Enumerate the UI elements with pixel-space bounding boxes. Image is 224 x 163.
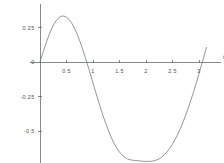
x-axis-name: t [223, 54, 224, 60]
y-tick-label: -0.25 [20, 94, 34, 100]
x-tick-label: 3 [197, 68, 200, 74]
chart-figure: 0.511.522.530.250-0.25-0.5t [0, 0, 224, 163]
plot-area: 0.511.522.530.250-0.25-0.5t [0, 0, 224, 163]
x-tick-label: 2.5 [168, 68, 177, 74]
curve-group [40, 16, 206, 161]
x-tick-label: 1 [91, 68, 94, 74]
x-tick-label: 2 [144, 68, 147, 74]
tick-labels-group: 0.511.522.530.250-0.25-0.5t [20, 25, 224, 135]
data-curve [40, 16, 206, 161]
y-tick-label: -0.5 [24, 128, 35, 134]
ticks-group [38, 28, 199, 132]
y-tick-label: 0.25 [23, 25, 35, 31]
x-tick-label: 0.5 [62, 68, 71, 74]
x-tick-label: 1.5 [115, 68, 124, 74]
y-origin-label: 0 [31, 59, 34, 65]
axes-group [30, 4, 221, 163]
